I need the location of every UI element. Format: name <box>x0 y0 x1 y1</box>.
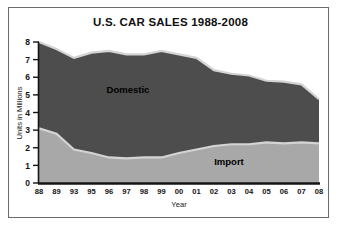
y-tick-label: 2 <box>25 143 30 153</box>
y-axis-title: Units in Millions <box>15 86 24 139</box>
x-tick-label: 07 <box>297 187 305 196</box>
x-tick-label: 03 <box>227 187 235 196</box>
y-tick-label: 1 <box>25 161 30 171</box>
x-axis-ticks: 8889939596979899000102030405060708 <box>35 187 323 196</box>
x-tick-label: 95 <box>87 187 96 196</box>
y-tick-label: 6 <box>25 72 30 82</box>
y-tick-label: 8 <box>25 37 30 47</box>
chart-figure: U.S. CAR SALES 1988-2008 012345678 88899… <box>0 0 341 229</box>
series-label-domestic: Domestic <box>107 84 150 95</box>
x-tick-label: 04 <box>245 187 254 196</box>
x-tick-label: 89 <box>52 187 60 196</box>
x-tick-label: 96 <box>105 187 113 196</box>
x-tick-label: 06 <box>280 187 288 196</box>
x-tick-label: 93 <box>70 187 78 196</box>
y-axis-ticks: 012345678 <box>25 37 39 188</box>
x-tick-label: 08 <box>315 187 323 196</box>
y-tick-label: 7 <box>25 55 30 65</box>
x-tick-label: 88 <box>35 187 43 196</box>
y-tick-label: 3 <box>25 125 30 135</box>
y-tick-label: 5 <box>25 90 30 100</box>
x-tick-label: 97 <box>122 187 130 196</box>
series-label-import: Import <box>214 156 244 167</box>
x-tick-label: 98 <box>140 187 148 196</box>
x-tick-label: 01 <box>192 187 201 196</box>
x-axis-title: Year <box>171 200 187 209</box>
x-tick-label: 02 <box>210 187 218 196</box>
y-tick-label: 4 <box>25 108 30 118</box>
chart-areas <box>39 42 319 183</box>
stacked-area-chart: 012345678 888993959697989900010203040506… <box>0 0 341 229</box>
x-tick-label: 05 <box>262 187 271 196</box>
y-tick-label: 0 <box>25 178 30 188</box>
area-domestic <box>39 42 319 158</box>
x-tick-label: 00 <box>175 187 183 196</box>
x-tick-label: 99 <box>157 187 165 196</box>
